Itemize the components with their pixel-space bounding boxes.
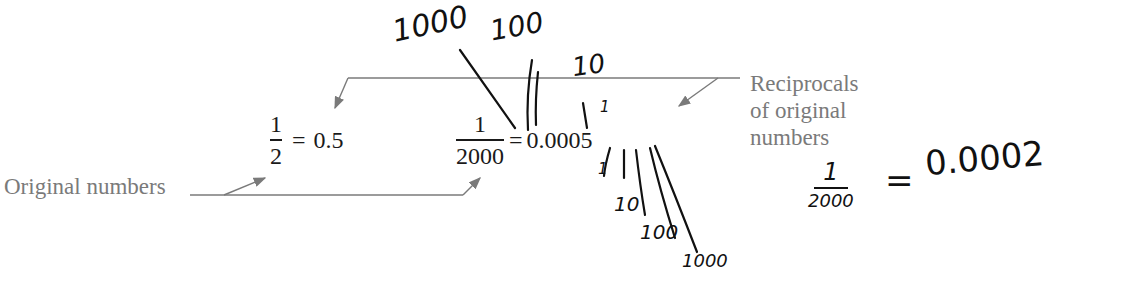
hand-place-1000-below: 1000 [682, 250, 728, 271]
hand-place-10-below: 10 [614, 192, 639, 216]
original-leader [190, 178, 480, 195]
denominator: 2000 [456, 143, 504, 169]
fraction-bar [456, 139, 504, 141]
hand-note-fraction: 1 2000 [808, 158, 854, 211]
equals-sign: = [509, 128, 523, 152]
equals-sign: = [292, 128, 306, 152]
hand-note-numerator: 1 [823, 158, 838, 186]
denominator: 2 [270, 143, 282, 169]
hand-note-fraction-bar [814, 187, 848, 189]
numerator: 1 [270, 111, 282, 137]
equation-two-thousandth: 1 2000 = 0.0005 [456, 111, 593, 169]
hand-place-10-above: 10 [570, 48, 607, 82]
fraction-one-two-thousandth: 1 2000 [456, 111, 504, 169]
reciprocals-label-line-3: numbers [750, 124, 859, 151]
hand-note-equals: = [885, 160, 914, 200]
numerator: 1 [474, 111, 486, 137]
hand-place-1-above: 1 [600, 98, 610, 116]
fraction-bar [270, 139, 282, 141]
fraction-one-half: 1 2 [270, 111, 282, 169]
hand-place-100-below: 100 [640, 220, 678, 244]
reciprocals-label: Reciprocals of original numbers [750, 70, 859, 151]
hand-note-denominator: 2000 [808, 190, 854, 211]
decimal-result: 0.5 [314, 128, 344, 152]
decimal-result: 0.0005 [527, 128, 593, 152]
reciprocals-label-line-2: of original [750, 97, 859, 124]
figure-canvas: Original numbers Reciprocals of original… [0, 0, 1122, 283]
hand-place-1-below: 1 [598, 160, 608, 178]
original-numbers-label: Original numbers [4, 173, 166, 200]
equation-half: 1 2 = 0.5 [270, 111, 344, 169]
reciprocals-label-line-1: Reciprocals [750, 70, 859, 97]
